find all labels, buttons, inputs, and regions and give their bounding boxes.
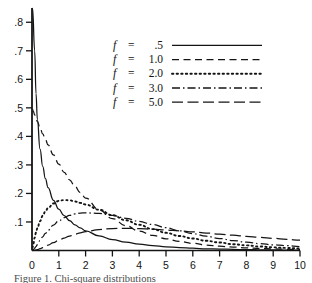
series-line xyxy=(33,213,300,251)
legend-value: 3.0 xyxy=(149,82,164,94)
y-tick-label: .3 xyxy=(14,159,23,171)
chart-legend: f=.5f=1.0f=2.0f=3.0f=5.0 xyxy=(113,38,262,109)
series-line xyxy=(33,109,300,249)
y-tick-label: .4 xyxy=(14,130,23,142)
x-tick-label: 8 xyxy=(243,259,249,271)
x-tick-label: 0 xyxy=(29,259,35,271)
x-tick-label: 9 xyxy=(270,259,276,271)
x-tick-label: 5 xyxy=(163,259,169,271)
x-tick-label: 10 xyxy=(294,259,306,271)
y-tick-label: .8 xyxy=(14,16,23,28)
legend-value: 5.0 xyxy=(149,96,164,108)
x-tick-label: 6 xyxy=(190,259,196,271)
y-tick-label: .7 xyxy=(14,45,23,57)
legend-variable: f xyxy=(113,38,118,52)
y-tick-label: .1 xyxy=(14,216,23,228)
legend-variable: f xyxy=(113,95,118,109)
legend-equals: = xyxy=(128,53,135,65)
legend-value: 1.0 xyxy=(149,53,164,65)
x-tick-label: 7 xyxy=(217,259,223,271)
x-tick-label: 2 xyxy=(83,259,89,271)
legend-equals: = xyxy=(128,82,135,94)
legend-value: 2.0 xyxy=(149,67,164,79)
legend-equals: = xyxy=(128,67,135,79)
y-tick-label: .5 xyxy=(14,102,23,114)
x-tick-label: 1 xyxy=(56,259,62,271)
legend-variable: f xyxy=(113,52,118,66)
legend-value: .5 xyxy=(154,39,163,51)
x-tick-label: 3 xyxy=(109,259,115,271)
figure-caption: Figure 1. Chi-square distributions xyxy=(14,272,306,283)
series-line xyxy=(33,8,300,250)
x-tick-label: 4 xyxy=(136,259,142,271)
legend-variable: f xyxy=(113,81,118,95)
legend-equals: = xyxy=(128,39,135,51)
legend-equals: = xyxy=(128,96,135,108)
curve-series xyxy=(33,8,300,251)
y-tick-label: .6 xyxy=(14,73,23,85)
legend-variable: f xyxy=(113,66,118,80)
y-tick-label: .2 xyxy=(14,187,23,199)
